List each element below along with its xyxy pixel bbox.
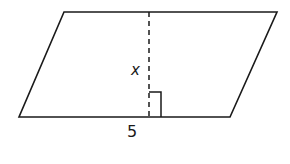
right-angle-marker (149, 92, 161, 117)
height-label: x (130, 61, 140, 79)
parallelogram-diagram: x 5 (0, 0, 290, 164)
base-label: 5 (127, 122, 137, 141)
parallelogram-outline (19, 12, 277, 117)
